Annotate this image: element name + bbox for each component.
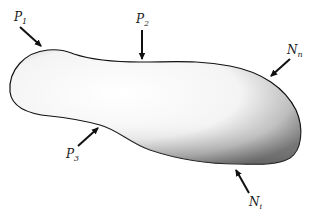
label-ni-symbol: N [249,195,260,209]
label-nn: Nn [287,44,303,59]
force-arrow-p3 [78,128,98,146]
force-arrow-ni [236,170,249,193]
rigid-body [10,50,301,164]
label-ni: Ni [249,196,262,211]
force-arrow-nn [271,59,290,76]
diagram-canvas [0,0,312,217]
label-p2: P2 [136,13,149,28]
label-nn-symbol: N [287,43,298,57]
label-p1-subscript: 1 [22,17,27,26]
force-arrow-p1 [20,27,41,46]
label-ni-subscript: i [260,202,263,211]
body-shadow-overlay [10,50,301,164]
label-p2-symbol: P [136,12,144,26]
label-p2-subscript: 2 [144,19,149,28]
label-nn-subscript: n [298,50,303,59]
label-p3: P3 [66,148,79,163]
label-p1-symbol: P [14,10,22,24]
label-p3-subscript: 3 [74,154,79,163]
label-p1: P1 [14,11,27,26]
label-p3-symbol: P [66,147,74,161]
